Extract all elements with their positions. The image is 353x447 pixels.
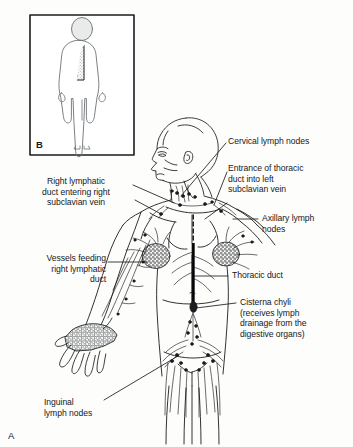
label-right-lymphatic-duct: Right lymphatic duct entering right subc… bbox=[18, 176, 134, 208]
right-hand-lymphatic-plexus bbox=[55, 318, 117, 376]
figure-letter: A bbox=[8, 430, 14, 441]
lymphatic-system-figure: Cervical lymph nodes Entrance of thoraci… bbox=[0, 0, 353, 447]
lymphatic-vessel-network bbox=[102, 185, 257, 417]
torso-outline bbox=[123, 196, 257, 386]
label-axillary-lymph-nodes: Axillary lymph nodes bbox=[262, 213, 350, 234]
axillary-node-cluster-left bbox=[213, 242, 240, 266]
leader-right-duct-2 bbox=[135, 200, 161, 214]
label-thoracic-duct: Thoracic duct bbox=[232, 270, 342, 281]
axillary-node-cluster-right bbox=[142, 244, 170, 269]
leader-entrance-2 bbox=[205, 203, 227, 219]
leader-right-duct bbox=[133, 185, 174, 203]
legs bbox=[166, 386, 219, 444]
inset-panel-letter: B bbox=[36, 139, 43, 150]
cisterna-chyli-sac bbox=[190, 302, 197, 313]
label-entrance-of-thoracic-duct: Entrance of thoracic duct into left subc… bbox=[228, 163, 350, 195]
label-cisterna-chyli: Cisterna chyli (receives lymph drainage … bbox=[240, 297, 352, 339]
label-inguinal-lymph-nodes: Inguinal lymph nodes bbox=[44, 397, 134, 418]
leader-inguinal bbox=[104, 356, 178, 400]
head-and-neck bbox=[151, 118, 218, 200]
label-vessels-feeding-right-lymphatic-duct: Vessels feeding right lymphatic duct bbox=[12, 253, 106, 285]
label-cervical-lymph-nodes: Cervical lymph nodes bbox=[228, 136, 350, 147]
leader-entrance-1 bbox=[214, 172, 227, 205]
leader-cervical bbox=[181, 143, 226, 196]
